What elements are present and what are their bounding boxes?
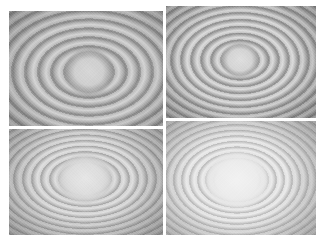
fringe-panel-top-right xyxy=(166,6,316,118)
grain xyxy=(9,11,163,126)
grain xyxy=(9,129,163,235)
fringe-panel-top-left xyxy=(9,11,163,126)
grain xyxy=(166,6,316,118)
fringe-panel-bottom-left xyxy=(9,129,163,235)
grain xyxy=(166,121,316,235)
fringe-panel-bottom-right xyxy=(166,121,316,235)
